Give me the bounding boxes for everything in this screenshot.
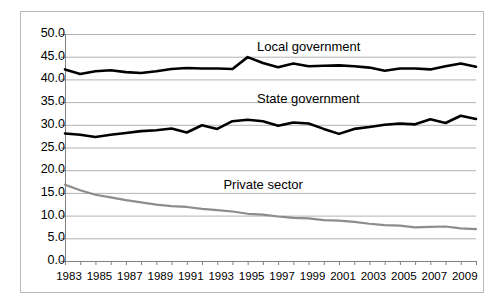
x-axis-tick-label: 1993 [204,270,238,282]
y-axis-tick-label: 25.0 [21,140,65,154]
y-axis-tick-label: 35.0 [21,94,65,108]
x-axis-tick-label: 2003 [356,270,390,282]
y-axis-tick-label: 15.0 [21,185,65,199]
x-axis-tick-label: 2001 [326,270,360,282]
x-axis-tick-label: 1995 [235,270,269,282]
clipped-header-text: · ·· ···· ···· ···· ······ · ···· ··· ··… [0,0,492,9]
x-axis-tick-label: 2005 [387,270,421,282]
plot-area: 50.045.040.035.030.025.020.015.010.05.00… [21,12,485,294]
x-axis-tick-label: 1999 [296,270,330,282]
y-axis-tick-label: 20.0 [21,162,65,176]
y-axis-tick-label: 50.0 [21,26,65,40]
y-axis-tick-label: 0.0 [21,253,65,267]
x-axis-tick-label: 2009 [448,270,482,282]
y-axis-tick-label: 5.0 [21,230,65,244]
x-axis-tick-label: 1987 [113,270,147,282]
series-annotation-label: Private sector [223,177,302,192]
series-annotation-label: State government [257,91,360,106]
chart-screenshot: · ·· ···· ···· ···· ······ · ···· ··· ··… [0,0,492,306]
x-axis-tick-label: 1983 [52,270,86,282]
y-axis-tick-label: 45.0 [21,49,65,63]
series-annotation-label: Local government [257,39,360,54]
series-line-1 [65,57,476,74]
y-axis-tick-label: 40.0 [21,71,65,85]
series-line-2 [65,116,476,137]
chart-svg [21,12,485,294]
x-axis-tick-label: 1991 [174,270,208,282]
x-axis-tick-label: 1985 [82,270,116,282]
x-axis-tick-label: 1997 [265,270,299,282]
chart-frame: 50.045.040.035.030.025.020.015.010.05.00… [20,11,484,293]
x-axis-tick-label: 2007 [417,270,451,282]
y-axis-tick-label: 30.0 [21,117,65,131]
y-axis-tick-label: 10.0 [21,208,65,222]
x-axis-tick-label: 1989 [143,270,177,282]
clipped-header-label: · ·· ···· ···· ···· ······ · ···· ··· ··… [4,0,189,5]
